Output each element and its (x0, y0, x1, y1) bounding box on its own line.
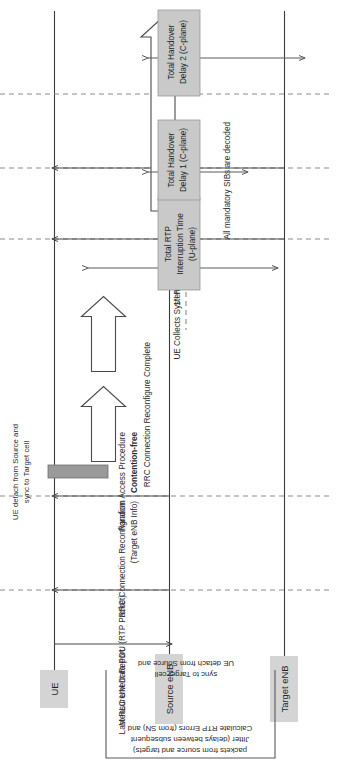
note-calculate-rtp-errors-line3: packets from source and targets) (133, 746, 247, 755)
message-rrc-reconfigure-complete-block-arrow (82, 297, 126, 372)
activation-block-ue-detach (48, 465, 108, 478)
message-all-mandatory-sibs-decoded-label: All mandatory SIBs are decoded (223, 122, 232, 240)
lifeline-target-enb-label: Target eNB (279, 666, 290, 713)
note-calculate-rtp-errors-text: Calculate RTP Errors (from SN) and Jitte… (128, 724, 253, 755)
lifeline-ue-label: UE (49, 682, 60, 695)
sequence-diagram-svg: UE Source eNB Target eNB Measuremen (0, 0, 337, 766)
band-total-rtp-interruption-time-line1: Total RTP (164, 226, 173, 262)
band-total-handover-delay-2-line1: Total Handover (167, 24, 176, 79)
note-ue-detach-line2: sync to Target cell (22, 441, 31, 504)
activation-block-ue-detach-rect (48, 465, 108, 478)
message-random-access-procedure-label-line1: Random Access Procedure (118, 432, 127, 532)
message-measurement-report: Measurement Report (55, 644, 173, 726)
band-total-handover-delay-2-line2: Delay 2 (C-plane) (179, 20, 188, 84)
note-ue-detach-line1: UE detach from Source and (11, 424, 20, 520)
message-rrc-connection-reconfiguration: RRC Connection Reconfigration (Target eN… (52, 496, 170, 618)
band-total-handover-delay-1-line1: Total Handover (167, 132, 176, 187)
message-random-access-procedure-label-line2: Contention-free (130, 432, 139, 493)
lifeline-target-enb: Target eNB (270, 11, 298, 722)
band-total-rtp-interruption-time-line3: (U-plane) (188, 227, 197, 261)
band-total-handover-delay-2: Total Handover Delay 2 (C-plane) (148, 10, 305, 96)
note-calculate-rtp-errors-line2: Jitter (delays between subsequent (130, 735, 249, 744)
note-ue-detach-text-line2: sync to Target cell (155, 670, 218, 679)
band-total-rtp-interruption-time-line2: Interruption Time (176, 213, 185, 275)
diagram-canvas: UE Source eNB Target eNB Measuremen (0, 0, 337, 766)
note-ue-detach: UE detach from Source and sync to Target… (11, 424, 31, 520)
band-total-handover-delay-1-line2: Delay 1 (C-plane) (179, 128, 188, 192)
lifeline-ue: UE (40, 11, 68, 708)
note-calculate-rtp-errors-line1: Calculate RTP Errors (from SN) and (128, 724, 253, 733)
message-rrc-reconfigure-complete-label: RRC Connection Reconfigure Complete (143, 342, 152, 488)
note-ue-detach-text: UE detach from Source and sync to Target… (138, 659, 234, 679)
note-ue-detach-text-line1: UE detach from Source and (138, 659, 234, 668)
message-rrc-connection-reconfiguration-label-line2: (Target eNB Info) (130, 501, 139, 564)
band-total-handover-delay-1: Total Handover Delay 1 (C-plane) (148, 120, 248, 200)
